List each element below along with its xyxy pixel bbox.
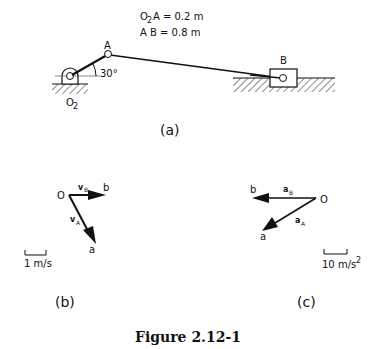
ab-label: a: [283, 185, 288, 194]
acceleration-polygon: O a B b a A a 10 m/s 2 (c): [250, 184, 361, 310]
angle-label: 30°: [100, 68, 118, 79]
point-b-label: B: [280, 55, 287, 66]
vb-sub: B: [84, 186, 88, 193]
point-a-label: A: [104, 40, 111, 51]
velocity-origin-label: O: [57, 190, 65, 201]
aa-arrowhead: [262, 217, 278, 231]
aa-label: a: [295, 216, 300, 225]
accel-origin-label: O: [320, 194, 328, 205]
velocity-end-b: b: [103, 182, 109, 193]
given-dimensions: O 2 A = 0.2 m A B = 0.8 m: [140, 11, 203, 38]
panel-c-caption: (c): [297, 294, 316, 310]
aa-sub: A: [301, 220, 306, 227]
joint-a: [105, 51, 112, 58]
accel-scale-bar: [324, 249, 347, 254]
angle-arc: [93, 64, 96, 76]
velocity-end-a: a: [89, 244, 95, 255]
va-sub: A: [76, 219, 81, 226]
panel-a-caption: (a): [160, 122, 180, 138]
accel-scale-sup: 2: [356, 256, 361, 265]
pivot-o2-sub: 2: [73, 102, 78, 111]
figure-caption: Figure 2.12-1: [135, 329, 241, 345]
velocity-scale-bar: [25, 250, 46, 255]
accel-end-a: a: [260, 231, 266, 242]
accel-scale-label: 10 m/s: [322, 259, 356, 270]
coupler-link-ab: [110, 55, 282, 78]
given-ab: A B = 0.8 m: [140, 27, 200, 38]
panel-b-caption: (b): [55, 294, 75, 310]
velocity-scale-label: 1 m/s: [24, 258, 52, 269]
ab-sub: B: [289, 189, 293, 196]
velocity-polygon: O v B b v A a 1 m/s (b): [24, 182, 109, 310]
accel-end-b: b: [250, 184, 256, 195]
given-o2a-sub: 2: [147, 16, 152, 25]
given-o2a-rest: A = 0.2 m: [153, 11, 203, 22]
ground-hatch-left: [52, 84, 88, 94]
joint-b: [280, 75, 287, 82]
va-arrowhead: [83, 226, 96, 244]
figure-canvas: O 2 A = 0.2 m A B = 0.8 m 30° A B O 2 (: [0, 0, 370, 349]
mechanism-diagram: 30° A B O 2 (a): [52, 40, 335, 138]
